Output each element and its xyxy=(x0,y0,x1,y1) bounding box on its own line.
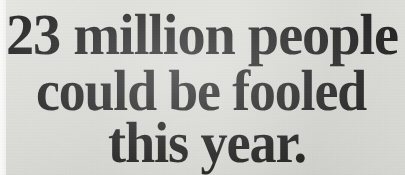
headline-line-1: 23 million people xyxy=(6,6,398,64)
subhead-cropped xyxy=(30,169,370,175)
scanned-advertisement: 23 million people could be fooled this y… xyxy=(0,0,405,175)
headline-line-3: this year. xyxy=(108,114,306,172)
headline-block: 23 million people could be fooled this y… xyxy=(0,0,405,175)
